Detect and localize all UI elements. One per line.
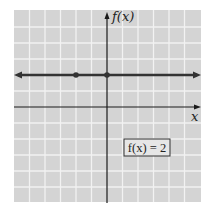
function-label-box: f(x) = 2 <box>124 139 170 156</box>
function-label: f(x) = 2 <box>128 141 166 155</box>
y-axis-label: f(x) <box>111 9 134 24</box>
function-graph: f(x) x f(x) = 2 <box>0 0 210 213</box>
x-axis-label: x <box>191 109 199 124</box>
point-neg2-2 <box>73 72 79 78</box>
point-0-2 <box>104 72 110 78</box>
